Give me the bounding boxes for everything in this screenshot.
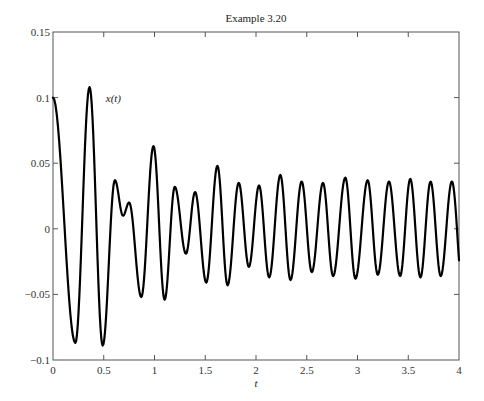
x-tick-label: 4	[456, 364, 462, 376]
y-tick-label: 0.1	[36, 92, 50, 104]
x-tick-label: 3	[355, 364, 361, 376]
y-tick-label: 0	[45, 223, 51, 235]
y-tick-label: −0.1	[30, 354, 50, 366]
line-chart: Example 3.20 00.511.522.533.54 −0.1−0.05…	[0, 0, 484, 401]
x-tick-label: 0	[50, 364, 56, 376]
x-tick-label: 2.5	[300, 364, 314, 376]
x-tick-label: 0.5	[97, 364, 111, 376]
x-tick-label: 1	[152, 364, 158, 376]
x-tick-label: 1.5	[198, 364, 212, 376]
plot-area: 00.511.522.533.54 −0.1−0.0500.050.10.15 …	[25, 26, 463, 376]
chart-title: Example 3.20	[225, 12, 287, 24]
y-tick-label: 0.05	[31, 157, 51, 169]
x-axis-label: t	[254, 377, 258, 389]
x-tick-label: 3.5	[401, 364, 415, 376]
y-tick-label: 0.15	[31, 26, 51, 38]
x-tick-label: 2	[253, 364, 259, 376]
series-line-x-t	[53, 87, 459, 345]
series-label: x(t)	[105, 92, 122, 105]
y-tick-label: −0.05	[25, 288, 51, 300]
